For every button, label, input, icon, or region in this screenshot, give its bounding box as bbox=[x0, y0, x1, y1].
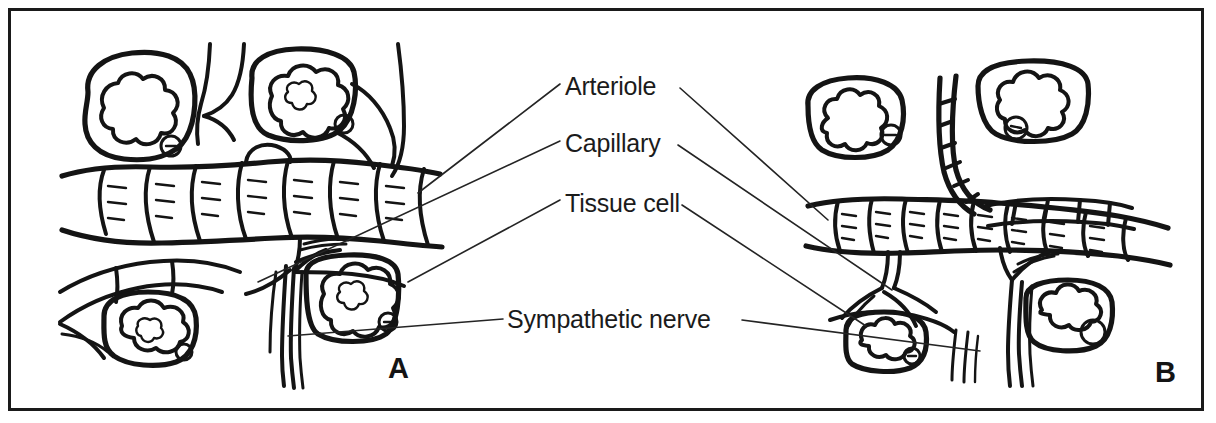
panel-a-drawing bbox=[60, 44, 442, 388]
label-arteriole: Arteriole bbox=[565, 74, 656, 99]
label-tissue-cell: Tissue cell bbox=[565, 191, 680, 216]
figure-root: .ink { fill:none; stroke:#141414; stroke… bbox=[0, 0, 1216, 423]
panel-label-b: B bbox=[1155, 358, 1176, 387]
panel-b-tissue-cell-upper-left bbox=[808, 78, 904, 158]
label-sympathetic-nerve: Sympathetic nerve bbox=[507, 307, 711, 332]
panel-b-tissue-cell-upper-right bbox=[978, 61, 1088, 142]
panel-a-tissue-cell-upper-left bbox=[85, 52, 195, 159]
panel-a-sympathetic-nerve bbox=[270, 266, 303, 388]
panel-a-arteriole-striations bbox=[108, 180, 404, 220]
panel-b-descending-vessel bbox=[939, 76, 990, 214]
leader-line-tissue-cell-a bbox=[408, 200, 560, 282]
panel-a-capillary-network bbox=[246, 238, 404, 294]
leader-line-capillary-b bbox=[678, 145, 892, 290]
panel-a-tissue-cell-upper-middle bbox=[251, 49, 355, 141]
panel-label-a: A bbox=[388, 354, 409, 383]
panel-a-tissue-cell-lower-left bbox=[104, 292, 196, 365]
panel-a-lower-left-structures bbox=[60, 260, 240, 358]
leader-line-arteriole-a bbox=[418, 84, 560, 193]
panel-b-tissue-cell-lower-right bbox=[1026, 280, 1113, 351]
panel-b-drawing bbox=[806, 61, 1170, 386]
panel-b-sympathetic-nerve bbox=[952, 330, 978, 382]
label-capillary: Capillary bbox=[565, 131, 660, 156]
